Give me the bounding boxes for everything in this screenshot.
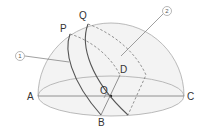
label-D: D — [120, 64, 127, 75]
hemisphere-surface — [38, 23, 184, 116]
label-C: C — [187, 91, 194, 102]
label-A: A — [27, 91, 34, 102]
label-Q: Q — [79, 10, 87, 21]
hemisphere-diagram: 1 2 A C B D O P Q — [0, 0, 205, 135]
label-B: B — [98, 117, 105, 128]
label-O: O — [100, 85, 108, 96]
label-P: P — [60, 23, 67, 34]
